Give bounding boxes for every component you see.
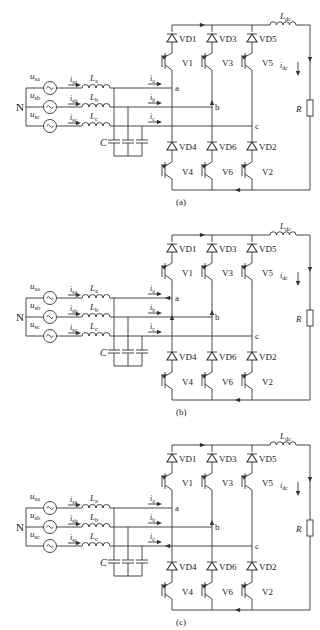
upper-switch-label-0: V1 <box>182 58 193 68</box>
ac-source-2 <box>44 120 57 133</box>
line-current-label-2: isc <box>70 113 77 123</box>
wire <box>245 275 252 280</box>
source-label-1: usb <box>30 300 40 311</box>
lower-switch-label-1: V6 <box>222 587 233 597</box>
upper-diode-label-1: VD3 <box>219 454 237 464</box>
lower-diode-label-2: VD2 <box>259 142 277 152</box>
ac-source-1 <box>44 311 57 324</box>
dc-inductor-label: Ldc <box>279 11 291 22</box>
wire <box>245 174 252 179</box>
node-label-2: c <box>255 121 259 131</box>
panel-b: NusaisaLaiaausbisbLbibbusciscLciccCVD1V1… <box>16 221 313 417</box>
line-current-label-2: isc <box>70 533 77 543</box>
arrow-icon <box>157 521 162 525</box>
diode-triangle <box>247 562 257 570</box>
lower-switch-2 <box>242 360 252 400</box>
upper-switch-label-0: V1 <box>182 268 193 278</box>
lower-switch-1 <box>202 360 212 400</box>
source-label-0: usa <box>30 71 40 82</box>
lower-diode-label-1: VD6 <box>219 142 237 152</box>
wire <box>165 594 172 599</box>
diode-triangle <box>247 352 257 360</box>
arrow-icon <box>296 491 300 496</box>
line-current-label-1: isb <box>70 304 77 314</box>
line-current-label-1: isb <box>70 514 77 524</box>
lower-diode-1 <box>207 352 217 360</box>
lower-diode-1 <box>207 142 217 150</box>
sine-glyph <box>47 125 54 128</box>
lower-diode-2 <box>247 562 257 570</box>
load-current-arrow-icon <box>308 57 312 62</box>
wire <box>245 594 252 599</box>
capacitor-label: C <box>100 347 107 358</box>
lower-diode-label-0: VD4 <box>179 142 197 152</box>
neutral-label: N <box>16 101 24 113</box>
line-inductor-1 <box>82 524 110 527</box>
upper-switch-2 <box>242 252 252 290</box>
wire <box>205 65 212 70</box>
upper-diode-0 <box>167 244 177 252</box>
arrow-icon <box>157 292 162 296</box>
bridge-current-label-2: ic <box>150 112 155 122</box>
line-inductor-2 <box>82 123 110 127</box>
upper-switch-label-1: V3 <box>222 478 233 488</box>
panel-c: NusaisaLaiaausbisbLbibbusciscLciccCVD1V1… <box>16 431 313 627</box>
ac-source-0 <box>44 502 57 515</box>
line-inductor-1 <box>82 314 110 317</box>
arrow-icon <box>296 71 300 76</box>
upper-diode-1 <box>207 34 217 42</box>
lower-diode-0 <box>167 562 177 570</box>
bridge-current-label-2: ic <box>150 322 155 332</box>
upper-diode-1 <box>207 244 217 252</box>
ac-source-0 <box>44 82 57 95</box>
upper-switch-label-1: V3 <box>222 268 233 278</box>
node-label-2: c <box>255 331 259 341</box>
panel-caption-a: (a) <box>176 197 186 207</box>
upper-switch-label-2: V5 <box>262 268 273 278</box>
dc-inductor <box>270 22 296 25</box>
upper-diode-2 <box>247 34 257 42</box>
source-label-2: usc <box>30 319 40 330</box>
source-label-1: usb <box>30 90 40 101</box>
dc-bus-arrow-icon <box>200 443 205 447</box>
upper-switch-label-0: V1 <box>182 478 193 488</box>
upper-switch-0 <box>162 252 172 290</box>
line-inductor-1 <box>82 104 110 107</box>
bridge-current-label-0: ia <box>150 74 155 84</box>
diode-triangle <box>247 244 257 252</box>
arrow-icon <box>157 502 162 506</box>
dc-return-arrow-icon <box>235 188 240 192</box>
dc-inductor-label: Ldc <box>279 221 291 232</box>
upper-diode-0 <box>167 454 177 462</box>
inductor-label-2: Lc <box>89 111 98 122</box>
line-current-label-2: isc <box>70 323 77 333</box>
line-current-label-0: isa <box>70 285 77 295</box>
diode-triangle <box>167 34 177 42</box>
capacitor-label: C <box>100 137 107 148</box>
wire <box>205 174 212 179</box>
lower-diode-2 <box>247 142 257 150</box>
lower-diode-0 <box>167 352 177 360</box>
wire <box>205 384 212 389</box>
node-b-vertical-arrow-icon <box>210 310 214 315</box>
dc-bus-arrow-icon <box>200 233 205 237</box>
wire <box>165 275 172 280</box>
arrow-icon <box>157 311 162 315</box>
diode-triangle <box>247 34 257 42</box>
upper-diode-2 <box>247 454 257 462</box>
upper-switch-1 <box>202 252 212 290</box>
source-label-0: usa <box>30 281 40 292</box>
dc-current-label: idc <box>280 61 288 71</box>
wire <box>165 485 172 490</box>
line-inductor-0 <box>82 85 110 88</box>
ac-source-0 <box>44 292 57 305</box>
node-label-1: b <box>215 522 220 532</box>
wire <box>245 384 252 389</box>
upper-diode-label-0: VD1 <box>179 34 197 44</box>
inductor-label-1: Lb <box>89 92 98 103</box>
upper-switch-0 <box>162 462 172 500</box>
upper-switch-2 <box>242 462 252 500</box>
lower-switch-0 <box>162 570 172 610</box>
node-a-vertical-arrow-icon <box>170 315 174 320</box>
load-label: R <box>295 104 302 114</box>
